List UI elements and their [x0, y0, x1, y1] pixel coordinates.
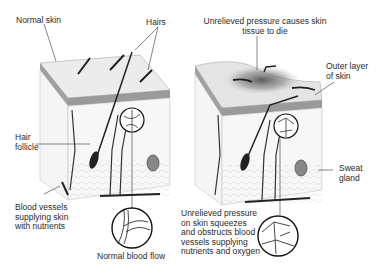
obstructed-vessels-label: Unrelieved pressure on skin squeezes and… [181, 209, 260, 257]
hair-follicle-label: Hair follicle [15, 133, 39, 152]
normal-blood-flow-label: Normal blood flow [97, 252, 165, 262]
normal-blood-flow-circle [112, 208, 152, 248]
sweat-gland-label: Sweat gland [339, 164, 363, 183]
obstructed-blood-flow-circle [258, 216, 298, 256]
pressure-title-label: Unrelieved pressure causes skin tissue t… [200, 17, 330, 36]
damaged-skin-block [195, 62, 322, 205]
blood-vessels-label: Blood vessels supplying skin with nutrie… [15, 203, 68, 232]
normal-skin-block [40, 52, 170, 200]
hairs-label: Hairs [146, 18, 166, 28]
outer-layer-label: Outer layer of skin [326, 62, 368, 81]
normal-skin-label: Normal skin [16, 16, 61, 26]
